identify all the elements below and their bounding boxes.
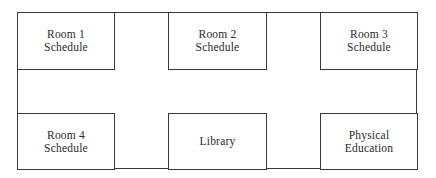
room-3-label: Room 3 Schedule: [347, 28, 391, 54]
room-4-schedule: Room 4 Schedule: [17, 113, 115, 170]
room-2-schedule: Room 2 Schedule: [168, 12, 267, 70]
room-4-label: Room 4 Schedule: [44, 129, 88, 155]
room-2-label: Room 2 Schedule: [196, 28, 240, 54]
library-room: Library: [168, 113, 267, 170]
library-label: Library: [200, 135, 236, 148]
physical-education-label: Physical Education: [345, 129, 393, 155]
room-3-schedule: Room 3 Schedule: [320, 12, 418, 70]
room-1-schedule: Room 1 Schedule: [17, 12, 115, 70]
physical-education-room: Physical Education: [320, 113, 418, 170]
room-1-label: Room 1 Schedule: [44, 28, 88, 54]
